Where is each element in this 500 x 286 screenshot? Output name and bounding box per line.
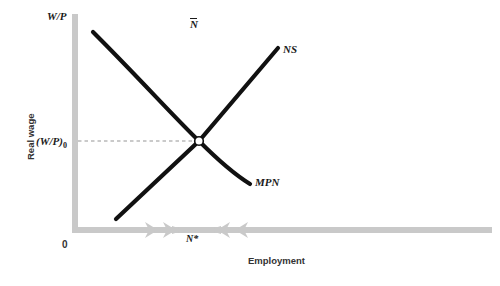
origin-label: 0	[62, 240, 68, 250]
overbar-icon	[190, 18, 197, 19]
ns-curve-label: NS	[283, 44, 297, 55]
equilibrium-wage-subscript: 0	[63, 141, 67, 150]
equilibrium-employment-label: N*	[186, 234, 198, 244]
y-axis-top-label: W/P	[47, 11, 67, 22]
labor-market-diagram: W/P Real wage (W/P)0 0 N N* NS MPN Emplo…	[0, 0, 500, 286]
y-axis-title: Real wage	[26, 114, 36, 160]
equilibrium-point-marker	[195, 137, 204, 146]
mpn-curve-label: MPN	[255, 177, 279, 188]
full-employment-label: N	[190, 19, 198, 30]
y-axis-line	[72, 14, 78, 233]
full-employment-letter: N	[190, 18, 198, 30]
x-axis-title: Employment	[248, 256, 305, 266]
diagram-canvas	[0, 0, 500, 286]
equilibrium-wage-label: (W/P)0	[36, 136, 67, 150]
n-bar-glyph: N	[190, 19, 198, 30]
equilibrium-wage-main: (W/P)	[36, 135, 63, 147]
ns-curve	[116, 48, 278, 219]
x-axis-line	[72, 227, 492, 233]
